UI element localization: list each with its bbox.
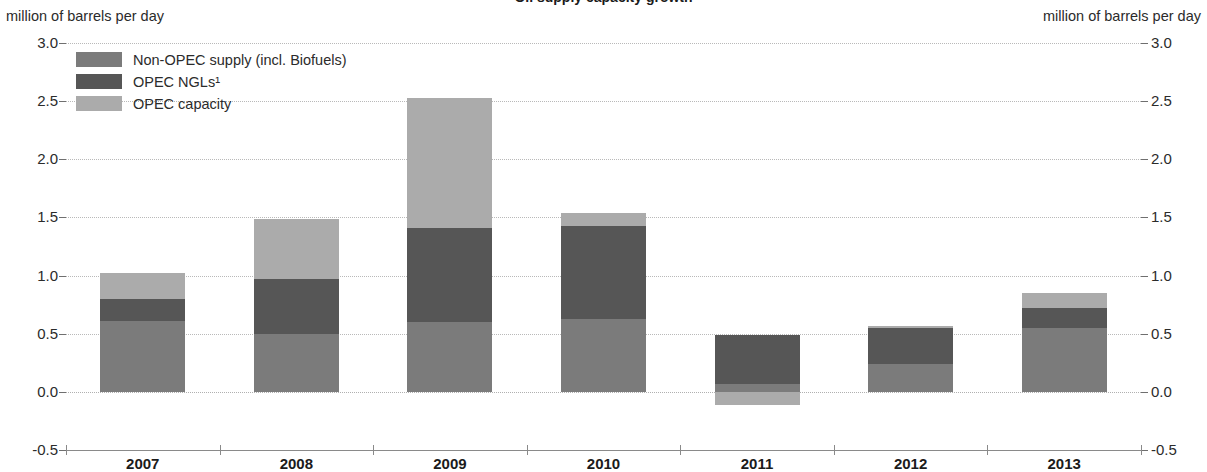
x-axis-tick-mark	[987, 445, 988, 455]
y-axis-tick-mark	[1141, 276, 1148, 277]
y-axis-tick-label-left: 1.5	[4, 208, 58, 225]
y-axis-tick-mark	[59, 450, 66, 451]
y-axis-tick-mark	[59, 43, 66, 44]
y-axis-tick-mark	[1141, 217, 1148, 218]
y-axis-tick-label-left: 3.0	[4, 34, 58, 51]
y-axis-tick-mark	[1141, 392, 1148, 393]
y-axis-tick-mark	[59, 159, 66, 160]
x-axis-line	[66, 450, 1141, 451]
x-axis-tick-mark	[373, 445, 374, 455]
bar-segment[interactable]	[868, 364, 953, 392]
y-axis-unit-label-left: million of barrels per day	[6, 8, 164, 24]
y-axis-tick-mark	[1141, 334, 1148, 335]
bar-segment[interactable]	[561, 213, 646, 226]
bar-group-2010[interactable]	[561, 43, 646, 450]
y-axis-tick-label-right: 0.0	[1151, 383, 1205, 400]
bar-segment[interactable]	[407, 322, 492, 392]
y-axis-tick-mark	[1141, 43, 1148, 44]
bar-group-2009[interactable]	[407, 43, 492, 450]
legend-item-label: OPEC capacity	[133, 96, 231, 112]
bar-group-2011[interactable]	[715, 43, 800, 450]
x-axis-tick-mark	[1141, 445, 1142, 455]
y-axis-unit-label-right: million of barrels per day	[1043, 8, 1201, 24]
bar-segment[interactable]	[100, 273, 185, 299]
x-axis: 2007200820092010201120122013	[66, 450, 1141, 463]
bar-segment[interactable]	[715, 392, 800, 405]
y-axis-tick-label-left: 2.0	[4, 150, 58, 167]
bar-segment[interactable]	[254, 219, 339, 279]
y-axis-tick-mark	[59, 334, 66, 335]
bar-segment[interactable]	[1022, 308, 1107, 328]
y-axis-tick-mark	[1141, 101, 1148, 102]
y-axis-tick-mark	[59, 217, 66, 218]
y-axis-tick-mark	[59, 392, 66, 393]
bar-segment[interactable]	[561, 226, 646, 319]
bar-segment[interactable]	[407, 228, 492, 322]
y-axis-tick-label-right: 1.5	[1151, 208, 1205, 225]
x-axis-tick-mark	[680, 445, 681, 455]
x-axis-tick-label: 2010	[527, 455, 681, 472]
bar-segment[interactable]	[1022, 293, 1107, 308]
bar-segment[interactable]	[868, 328, 953, 364]
chart-legend: Non-OPEC supply (incl. Biofuels) OPEC NG…	[76, 50, 347, 116]
legend-swatch-icon	[76, 96, 122, 111]
legend-swatch-icon	[76, 52, 122, 67]
y-axis-tick-label-left: 0.0	[4, 383, 58, 400]
bar-segment[interactable]	[715, 335, 800, 384]
y-axis-tick-mark	[59, 101, 66, 102]
legend-item-label: Non-OPEC supply (incl. Biofuels)	[133, 52, 347, 68]
bar-group-2012[interactable]	[868, 43, 953, 450]
legend-item-label: OPEC NGLs¹	[133, 74, 220, 90]
y-axis-tick-label-left: 0.5	[4, 325, 58, 342]
x-axis-tick-label: 2012	[834, 455, 988, 472]
x-axis-tick-label: 2009	[373, 455, 527, 472]
bar-segment[interactable]	[100, 299, 185, 321]
x-axis-tick-label: 2011	[680, 455, 834, 472]
legend-swatch-icon	[76, 74, 122, 89]
bar-segment[interactable]	[561, 319, 646, 392]
bar-segment[interactable]	[407, 98, 492, 228]
legend-item-non-opec-supply: Non-OPEC supply (incl. Biofuels)	[76, 50, 347, 69]
x-axis-tick-label: 2007	[66, 455, 220, 472]
y-axis-tick-label-right: 2.5	[1151, 92, 1205, 109]
bar-segment[interactable]	[100, 321, 185, 392]
legend-item-opec-capacity: OPEC capacity	[76, 94, 347, 113]
y-axis-tick-mark	[1141, 450, 1148, 451]
x-axis-tick-mark	[220, 445, 221, 455]
y-axis-tick-mark	[59, 276, 66, 277]
y-axis-tick-label-left: 1.0	[4, 267, 58, 284]
y-axis-tick-label-right: 1.0	[1151, 267, 1205, 284]
y-axis-tick-label-right: -0.5	[1151, 441, 1205, 458]
y-axis-tick-label-right: 3.0	[1151, 34, 1205, 51]
x-axis-tick-label: 2008	[220, 455, 374, 472]
bar-segment[interactable]	[715, 384, 800, 392]
y-axis-tick-mark	[1141, 159, 1148, 160]
chart-title: Oil supply capacity growth	[0, 0, 1207, 5]
x-axis-tick-label: 2013	[987, 455, 1141, 472]
y-axis-tick-label-right: 0.5	[1151, 325, 1205, 342]
bar-segment[interactable]	[868, 326, 953, 328]
x-axis-tick-mark	[527, 445, 528, 455]
legend-item-opec-ngls: OPEC NGLs¹	[76, 72, 347, 91]
x-axis-tick-mark	[66, 445, 67, 455]
bar-segment[interactable]	[254, 334, 339, 392]
bar-segment[interactable]	[254, 279, 339, 334]
y-axis-tick-label-right: 2.0	[1151, 150, 1205, 167]
x-axis-tick-mark	[834, 445, 835, 455]
bar-group-2013[interactable]	[1022, 43, 1107, 450]
y-axis-tick-label-left: -0.5	[4, 441, 58, 458]
bar-segment[interactable]	[1022, 328, 1107, 392]
y-axis-tick-label-left: 2.5	[4, 92, 58, 109]
